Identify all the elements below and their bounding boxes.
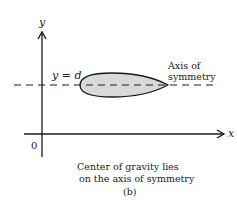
- caption-line-2: on the axis of symmetry: [79, 173, 195, 184]
- line-label: y = d: [51, 69, 81, 82]
- annotation-line-2: symmetry: [168, 71, 216, 82]
- caption-line-1: Center of gravity lies: [77, 161, 179, 172]
- x-axis-label: x: [228, 127, 235, 140]
- diagram: y x 0 y = d Axis of symmetry Center of g…: [0, 0, 237, 200]
- annotation-line-1: Axis of: [167, 60, 202, 71]
- subfigure-label: (b): [123, 186, 137, 197]
- origin-label: 0: [31, 140, 37, 151]
- y-axis-label: y: [38, 16, 46, 29]
